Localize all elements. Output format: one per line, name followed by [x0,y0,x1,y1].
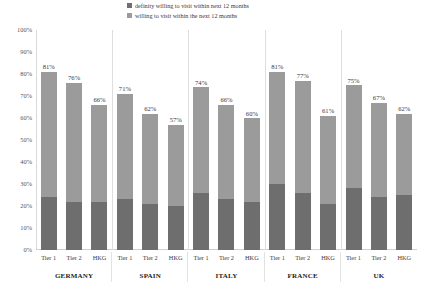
bar-value-label: 62% [398,105,410,112]
bar-segment-willing[interactable] [244,118,260,202]
bar-value-label: 76% [68,74,80,81]
bar-segment-willing[interactable] [168,125,184,206]
stacked-bar[interactable] [142,114,158,250]
bar-segment-definitely-willing[interactable] [91,202,107,250]
bar-column[interactable]: 60% [244,30,260,250]
bar-segment-definitely-willing[interactable] [117,199,133,250]
bar-column[interactable]: 81% [41,30,57,250]
tier-group: Tier 1Tier 2HKG [112,252,188,263]
bar-value-label: 57% [170,116,182,123]
bar-segment-willing[interactable] [142,114,158,204]
bar-segment-definitely-willing[interactable] [218,199,234,250]
country-label-row: GERMANYSPAINITALYFRANCEUK [36,268,417,284]
tier-label: HKG [91,254,107,261]
plot-area: 100%90%80%70%60%50%40%30%20%10%0% 81%76%… [36,30,417,250]
tier-label: Tier 1 [346,254,362,261]
legend-item-definitely-willing: definity willing to visit within next 12… [127,1,249,10]
bar-groups: 81%76%66%71%62%57%74%66%60%81%77%61%75%6… [36,30,417,250]
country-label: SPAIN [140,272,161,280]
bar-segment-willing[interactable] [218,105,234,200]
bar-segment-definitely-willing[interactable] [320,204,336,250]
bar-segment-willing[interactable] [346,85,362,188]
country-label: ITALY [216,272,238,280]
tier-label: Tier 1 [117,254,133,261]
tier-label: Tier 1 [269,254,285,261]
bar-segment-willing[interactable] [91,105,107,202]
bar-value-label: 74% [195,79,207,86]
bar-segment-definitely-willing[interactable] [142,204,158,250]
square-marker-icon [127,13,132,18]
y-axis-tick: 100% [17,27,32,33]
bar-group: 71%62%57% [112,30,188,250]
stacked-bar[interactable] [346,85,362,250]
stacked-bar[interactable] [244,118,260,250]
bar-segment-willing[interactable] [371,103,387,198]
stacked-bar[interactable] [91,105,107,250]
bar-value-label: 61% [322,107,334,114]
legend-item-willing: willing to visit within the next 12 mont… [127,11,249,20]
bar-value-label: 62% [144,105,156,112]
stacked-bar[interactable] [66,83,82,250]
country-label: GERMANY [55,272,93,280]
bar-group: 75%67%62% [341,30,417,250]
y-axis-tick: 50% [20,137,32,143]
bar-segment-definitely-willing[interactable] [396,195,412,250]
bar-segment-definitely-willing[interactable] [66,202,82,250]
tier-label: Tier 2 [218,254,234,261]
bar-column[interactable]: 74% [193,30,209,250]
bar-column[interactable]: 77% [295,30,311,250]
bar-segment-definitely-willing[interactable] [193,193,209,250]
bar-column[interactable]: 81% [269,30,285,250]
bar-segment-willing[interactable] [193,87,209,193]
bar-column[interactable]: 75% [346,30,362,250]
bar-segment-willing[interactable] [41,72,57,197]
bar-segment-definitely-willing[interactable] [295,193,311,250]
bar-group: 81%76%66% [36,30,112,250]
bar-segment-definitely-willing[interactable] [269,184,285,250]
bar-segment-definitely-willing[interactable] [346,188,362,250]
y-axis-tick: 60% [20,115,32,121]
bar-column[interactable]: 66% [218,30,234,250]
stacked-bar[interactable] [218,105,234,250]
stacked-bar[interactable] [168,125,184,250]
stacked-bar[interactable] [41,72,57,250]
bar-column[interactable]: 71% [117,30,133,250]
stacked-bar[interactable] [396,114,412,250]
y-axis-tick: 90% [20,49,32,55]
country-label: FRANCE [288,272,318,280]
stacked-bar[interactable] [193,87,209,250]
bar-segment-definitely-willing[interactable] [41,197,57,250]
legend-item-label: willing to visit within the next 12 mont… [135,12,237,19]
bar-column[interactable]: 57% [168,30,184,250]
bar-column[interactable]: 67% [371,30,387,250]
bar-segment-willing[interactable] [269,72,285,184]
tier-group: Tier 1Tier 2HKG [341,252,417,263]
bar-segment-willing[interactable] [117,94,133,200]
bar-value-label: 66% [93,96,105,103]
stacked-bar[interactable] [117,94,133,250]
bar-segment-willing[interactable] [295,81,311,193]
bar-segment-definitely-willing[interactable] [244,202,260,250]
y-axis-tick: 40% [20,159,32,165]
bar-column[interactable]: 66% [91,30,107,250]
bar-segment-willing[interactable] [396,114,412,195]
bar-column[interactable]: 61% [320,30,336,250]
stacked-bar[interactable] [295,81,311,250]
bar-column[interactable]: 76% [66,30,82,250]
bar-segment-willing[interactable] [320,116,336,204]
y-axis-tick: 80% [20,71,32,77]
bar-column[interactable]: 62% [142,30,158,250]
bar-column[interactable]: 62% [396,30,412,250]
bar-value-label: 60% [246,110,258,117]
bar-segment-definitely-willing[interactable] [168,206,184,250]
y-axis-tick: 20% [20,203,32,209]
stacked-bar[interactable] [371,103,387,250]
bar-segment-definitely-willing[interactable] [371,197,387,250]
stacked-bar[interactable] [269,72,285,250]
bar-segment-willing[interactable] [66,83,82,202]
country-cell: SPAIN [112,268,188,284]
legend-item-label: definity willing to visit within next 12… [135,2,249,9]
stacked-bar[interactable] [320,116,336,250]
bar-value-label: 81% [43,63,55,70]
tier-label: Tier 2 [66,254,82,261]
